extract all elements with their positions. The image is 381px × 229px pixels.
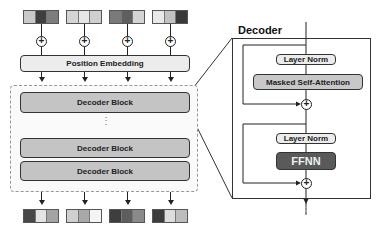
add-icon: + [301, 99, 312, 110]
token-cell [133, 11, 144, 23]
token-cell [24, 210, 36, 222]
token-cell [110, 210, 122, 222]
masked-self-attention-box: Masked Self-Attention [253, 74, 363, 90]
token-cell [153, 210, 165, 222]
add-icon: + [165, 36, 176, 47]
masked-self-attention-label: Masked Self-Attention [266, 78, 350, 87]
decoder-block-label: Decoder Block [77, 167, 133, 176]
token-cell [67, 210, 79, 222]
layer-norm-label: Layer Norm [284, 55, 328, 64]
arrow-down-icon [82, 77, 88, 82]
token-cell [90, 210, 101, 222]
input-token-1 [23, 10, 59, 24]
output-token-2 [66, 209, 102, 223]
add-icon: + [301, 178, 312, 189]
input-token-3 [109, 10, 145, 24]
token-cell [79, 11, 91, 23]
decoder-block-2: Decoder Block [20, 138, 190, 158]
arrow-down-icon [125, 200, 131, 205]
token-cell [176, 210, 187, 222]
layer-norm-label: Layer Norm [284, 134, 328, 143]
token-cell [165, 210, 177, 222]
token-cell [110, 11, 122, 23]
add-icon: + [36, 36, 47, 47]
arrow-down-icon [168, 200, 174, 205]
position-embedding-label: Position Embedding [66, 59, 143, 68]
token-cell [133, 210, 144, 222]
input-token-2 [66, 10, 102, 24]
token-cell [36, 210, 48, 222]
token-cell [165, 11, 177, 23]
add-icon: + [122, 36, 133, 47]
arrow-down-icon [39, 200, 45, 205]
arrow-down-icon [168, 77, 174, 82]
token-cell [47, 11, 58, 23]
decoder-block-label: Decoder Block [77, 98, 133, 107]
token-cell [176, 11, 187, 23]
token-cell [90, 11, 101, 23]
token-cell [67, 11, 79, 23]
token-cell [36, 11, 48, 23]
token-cell [122, 210, 134, 222]
token-cell [153, 11, 165, 23]
ellipsis: ⋮ [101, 116, 111, 126]
arrow-down-icon [39, 77, 45, 82]
decoder-block-label: Decoder Block [77, 144, 133, 153]
arrow-down-icon [82, 200, 88, 205]
ffnn-label: FFNN [291, 155, 320, 167]
ffnn-box: FFNN [276, 152, 336, 170]
output-token-4 [152, 209, 188, 223]
output-token-3 [109, 209, 145, 223]
decoder-block-3: Decoder Block [20, 161, 190, 181]
token-cell [122, 11, 134, 23]
token-cell [24, 11, 36, 23]
decoder-block-1: Decoder Block [20, 92, 190, 113]
layer-norm-1: Layer Norm [276, 54, 336, 65]
output-token-1 [23, 209, 59, 223]
arrow-down-icon [125, 77, 131, 82]
token-cell [47, 210, 58, 222]
input-token-4 [152, 10, 188, 24]
decoder-title: Decoder [238, 24, 282, 36]
layer-norm-2: Layer Norm [276, 133, 336, 144]
token-cell [79, 210, 91, 222]
add-icon: + [79, 36, 90, 47]
position-embedding-box: Position Embedding [20, 55, 190, 72]
